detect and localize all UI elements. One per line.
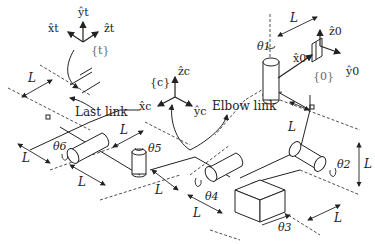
length-label: L [27, 71, 36, 85]
frame-c-name: {c} [150, 76, 170, 89]
elbow-link [150, 157, 195, 170]
joint-3-label: θ3 [278, 221, 292, 234]
frame-t-name: {t} [91, 44, 109, 57]
dimension-arrows [18, 17, 359, 225]
joint-5-label: θ5 [148, 142, 162, 155]
frame-0-y-label: ŷ0 [345, 65, 359, 78]
length-label: L [192, 206, 201, 220]
joint-1-label: θ1 [257, 40, 271, 53]
length-label: L [154, 183, 163, 197]
frame-0-name: {0} [313, 70, 334, 83]
length-label: L [287, 120, 296, 134]
joint-5-cylinder [132, 149, 146, 177]
frame-c-x-label: x̂c [139, 100, 151, 113]
frame-c-y-label: ŷc [193, 105, 206, 118]
joint-6-cylinder [65, 133, 109, 165]
elbow-link-label: Elbow link [212, 99, 277, 113]
frame-0-x-label: x̂0 [293, 52, 306, 65]
frame-0-z-label: ẑ0 [329, 25, 342, 38]
frame-t-z-label: ẑt [104, 22, 115, 35]
last-link-label: Last link [75, 105, 128, 119]
length-label: L [77, 175, 86, 189]
frame-c-z-label: ẑc [178, 65, 190, 78]
length-label: L [21, 151, 30, 165]
joint-3-box [235, 180, 285, 222]
length-label: L [363, 157, 372, 171]
joint-1-cylinder [263, 58, 279, 104]
length-label: L [333, 211, 342, 225]
frame-t-x-label: x̂t [48, 22, 59, 35]
joint-2-label: θ2 [337, 158, 351, 171]
length-label: L [119, 123, 128, 137]
joint-4-label: θ4 [205, 190, 219, 203]
frame-t-axes [68, 22, 98, 42]
length-label: L [289, 11, 298, 25]
frame-t-y-label: ŷt [77, 6, 89, 19]
robot-arm-diagram: ŷt x̂t ẑt {t} ẑc {c} x̂c ŷc Elbow link L… [0, 0, 375, 244]
joint-4-cylinder [203, 153, 243, 183]
joint-2-cylinder [287, 140, 329, 174]
joint-6-label: θ6 [53, 140, 67, 153]
